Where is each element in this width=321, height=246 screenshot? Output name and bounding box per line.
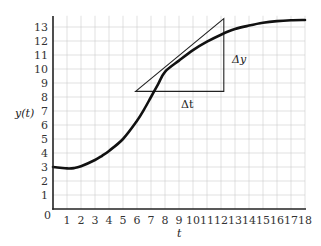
x-tick-label: 7 — [148, 214, 155, 227]
x-tick-label: 5 — [120, 214, 127, 227]
x-tick-label: 15 — [256, 214, 270, 227]
x-tick-label: 13 — [228, 214, 242, 227]
x-tick-label: 18 — [298, 214, 312, 227]
y-tick-label: 6 — [41, 119, 48, 132]
x-tick-label: 14 — [242, 214, 256, 227]
y-tick-label: 7 — [41, 105, 48, 118]
x-tick-label: 3 — [92, 214, 99, 227]
delta-y-label: Δy — [231, 53, 247, 66]
y-tick-label: 11 — [34, 49, 48, 62]
x-tick-label: 0 — [44, 209, 51, 222]
x-tick-label: 1 — [64, 214, 71, 227]
y-tick-label: 9 — [41, 77, 48, 90]
y-tick-label: 10 — [34, 63, 48, 76]
grid-lines — [53, 16, 305, 209]
delta-t-label: Δt — [181, 98, 194, 111]
line-chart: 0123456789101112131415161718 12345678910… — [0, 0, 321, 246]
y-axis-label: y(t) — [14, 107, 34, 120]
y-tick-label: 8 — [41, 91, 48, 104]
y-tick-label: 13 — [34, 21, 48, 34]
x-axis-label: t — [177, 227, 182, 240]
x-tick-label: 6 — [134, 214, 141, 227]
x-tick-label: 12 — [214, 214, 228, 227]
y-tick-label: 2 — [41, 175, 48, 188]
x-tick-label: 2 — [78, 214, 85, 227]
y-tick-label: 4 — [41, 147, 48, 160]
x-tick-label: 11 — [200, 214, 214, 227]
y-tick-label: 3 — [41, 161, 48, 174]
y-tick-label: 1 — [41, 189, 48, 202]
x-tick-label: 8 — [162, 214, 169, 227]
x-tick-label: 4 — [106, 214, 113, 227]
y-tick-label: 12 — [34, 35, 48, 48]
x-tick-labels: 0123456789101112131415161718 — [44, 209, 312, 227]
x-tick-label: 17 — [284, 214, 298, 227]
y-tick-label: 5 — [41, 133, 48, 146]
y-tick-labels: 12345678910111213 — [34, 21, 48, 202]
x-tick-label: 10 — [186, 214, 200, 227]
x-tick-label: 9 — [176, 214, 183, 227]
x-tick-label: 16 — [270, 214, 284, 227]
